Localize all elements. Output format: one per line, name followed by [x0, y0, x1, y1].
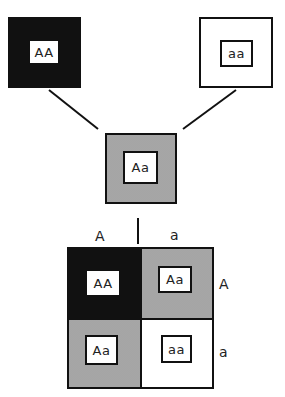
genotype-label: Aa — [158, 266, 192, 293]
parent-homozygous-recessive: aa — [199, 17, 273, 88]
punnett-cell-aa: aa — [140, 318, 212, 387]
punnett-cell-Aa: Aa — [69, 318, 140, 387]
line-parent-aa-to-offspring — [49, 90, 98, 129]
line-parent-recessive-to-offspring — [183, 90, 236, 129]
genotype-label: Aa — [123, 151, 158, 184]
genotype-label: AA — [87, 271, 119, 295]
row-allele-label: a — [219, 344, 228, 360]
row-allele-label: A — [219, 276, 229, 292]
punnett-cell-AA: AA — [69, 249, 140, 318]
genotype-label: Aa — [85, 335, 118, 365]
punnett-square: AA Aa Aa aa — [67, 247, 214, 389]
parent-homozygous-dominant: AA — [8, 17, 81, 88]
punnett-cell-Aa: Aa — [140, 249, 212, 318]
genotype-label: AA — [30, 41, 58, 63]
offspring-heterozygous: Aa — [105, 133, 177, 204]
genotype-label: aa — [220, 40, 253, 67]
genotype-label: aa — [161, 335, 192, 363]
column-allele-label: A — [95, 228, 105, 244]
column-allele-label: a — [170, 227, 179, 243]
